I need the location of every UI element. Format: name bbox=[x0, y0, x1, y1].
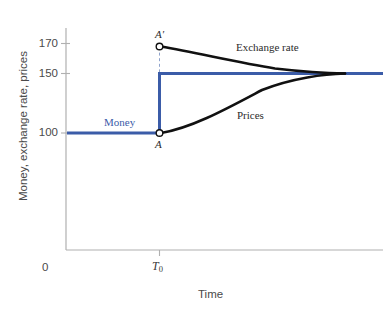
x-tick-label-t0: T0 bbox=[152, 259, 163, 274]
x-tick-label-t0-subscript: 0 bbox=[159, 264, 163, 274]
chart-figure: 170 150 100 0 T0 Time Money, exchange ra… bbox=[0, 0, 386, 310]
exchange-rate-label: Exchange rate bbox=[236, 41, 299, 53]
y-tick-label-100: 100 bbox=[30, 126, 58, 138]
point-marker-a-prime bbox=[156, 43, 163, 50]
prices-label: Prices bbox=[237, 109, 264, 121]
y-tick-label-150: 150 bbox=[30, 67, 58, 79]
y-axis-title: Money, exchange rate, prices bbox=[17, 42, 29, 210]
x-tick-label-t0-base: T bbox=[152, 259, 159, 273]
y-tick-label-170: 170 bbox=[30, 37, 58, 49]
money-label: Money bbox=[104, 116, 135, 128]
point-label-a: A bbox=[155, 138, 162, 150]
prices-curve bbox=[161, 74, 345, 134]
x-axis-title: Time bbox=[198, 288, 223, 300]
point-marker-a bbox=[156, 130, 163, 137]
point-label-a-prime: A′ bbox=[155, 28, 164, 40]
origin-label: 0 bbox=[42, 261, 48, 273]
